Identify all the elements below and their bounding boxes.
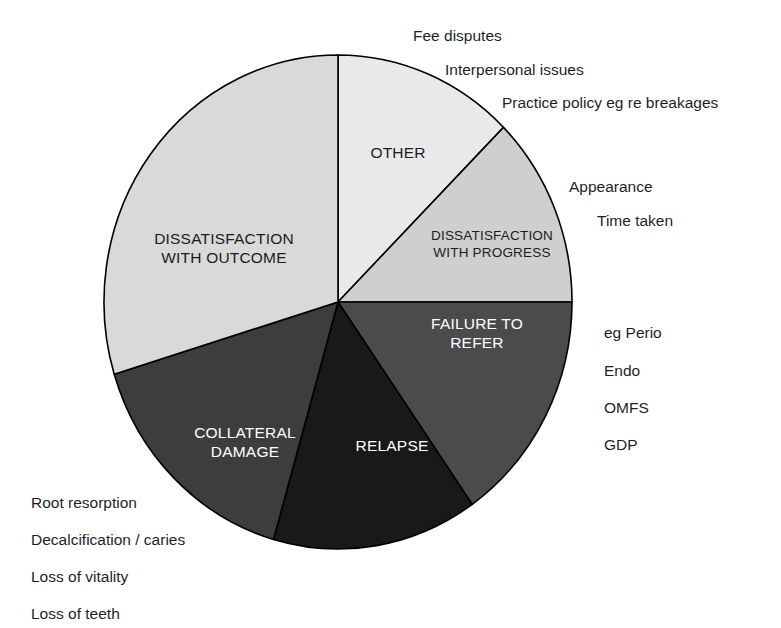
slice-annotation: Practice policy eg re breakages [502, 95, 718, 111]
slice-annotation: Loss of teeth [31, 606, 120, 622]
slice-annotation: Decalcification / caries [31, 532, 185, 548]
pie-slice-label: OTHER [370, 144, 425, 161]
pie-slice-label-line: COLLATERAL [194, 424, 296, 441]
slice-annotation: eg Perio [604, 325, 662, 341]
slice-annotation: Endo [604, 363, 640, 379]
pie-slice-label-line: WITH OUTCOME [161, 249, 287, 266]
slice-annotation: Interpersonal issues [445, 62, 584, 78]
pie-slice-label-line: OTHER [370, 144, 425, 161]
pie-slice-layer [104, 55, 572, 549]
pie-slice-label-line: DISSATISFACTION [431, 227, 553, 242]
slice-annotation: OMFS [604, 400, 649, 416]
slice-annotation: Loss of vitality [31, 569, 128, 585]
pie-slice-label: RELAPSE [356, 437, 429, 454]
pie-slice-label-line: DISSATISFACTION [154, 230, 294, 247]
slice-annotation: Fee disputes [413, 28, 502, 44]
slice-annotation: Time taken [597, 213, 673, 229]
pie-slice-label-line: RELAPSE [356, 437, 429, 454]
slice-annotation: GDP [604, 437, 638, 453]
pie-slice-label-line: DAMAGE [211, 443, 279, 460]
pie-slice-label-line: REFER [450, 334, 504, 351]
pie-slice-label-line: WITH PROGRESS [433, 244, 550, 259]
pie-chart-figure: OTHERDISSATISFACTIONWITH PROGRESSFAILURE… [0, 0, 781, 628]
pie-slice-label-line: FAILURE TO [431, 315, 523, 332]
slice-annotation: Root resorption [31, 495, 137, 511]
slice-annotation: Appearance [569, 179, 653, 195]
